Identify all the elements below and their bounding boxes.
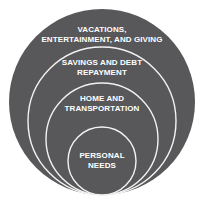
nested-circle-diagram: VACATIONS, ENTERTAINMENT, AND GIVING SAV… — [0, 0, 204, 206]
label-level4-line2: NEEDS — [88, 161, 117, 170]
label-level4-line1: PERSONAL — [79, 151, 124, 160]
label-level3-line2: TRANSPORTATION — [65, 104, 140, 113]
label-level3-line1: HOME AND — [80, 94, 124, 103]
label-level1-line1: VACATIONS, — [77, 25, 126, 34]
label-level2-line2: REPAYMENT — [77, 68, 127, 77]
label-level1-line2: ENTERTAINMENT, AND GIVING — [41, 35, 162, 44]
label-level2-line1: SAVINGS AND DEBT — [62, 58, 142, 67]
